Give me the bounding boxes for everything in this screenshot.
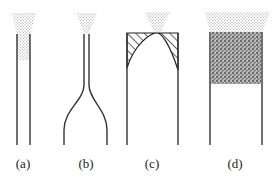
panel-b	[64, 13, 107, 145]
panel-c	[127, 12, 178, 145]
label-b: (b)	[71, 156, 101, 172]
panel-a	[12, 13, 36, 145]
powder-funnel	[205, 12, 270, 32]
panel-d	[205, 12, 270, 145]
diagram-canvas	[0, 0, 274, 181]
powder-funnel	[145, 12, 170, 33]
hatched-arch	[127, 33, 178, 70]
label-c: (c)	[137, 156, 167, 172]
dense-powder-plug	[211, 32, 261, 84]
label-d: (d)	[220, 156, 250, 172]
label-a: (a)	[8, 156, 38, 172]
powder-funnel	[76, 13, 97, 34]
powder-funnel	[12, 13, 36, 60]
